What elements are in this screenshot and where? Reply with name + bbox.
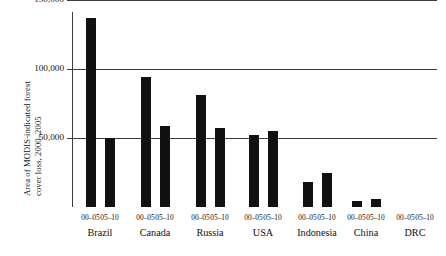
bar-indonesia-05-10 bbox=[322, 173, 332, 208]
chart-figure: Area of MODIS-indicated forest cover los… bbox=[0, 0, 446, 256]
y-axis-line bbox=[72, 12, 73, 207]
bar-china-00-05 bbox=[352, 201, 362, 207]
bar-canada-05-10 bbox=[160, 126, 170, 207]
y-tick-150000 bbox=[67, 0, 72, 1]
bar-russia-05-10 bbox=[215, 128, 225, 207]
x-period-label-drc-05-10: 05–10 bbox=[411, 213, 439, 222]
bar-brazil-00-05 bbox=[86, 18, 96, 207]
x-period-label-usa-05-10: 05–10 bbox=[259, 213, 287, 222]
bar-brazil-05-10 bbox=[105, 138, 115, 207]
bar-russia-00-05 bbox=[196, 95, 206, 207]
bar-indonesia-00-05 bbox=[303, 182, 313, 207]
y-tick-50000 bbox=[67, 138, 72, 139]
y-axis-title-line2: cover loss, 2000–2005 bbox=[33, 116, 43, 196]
bar-canada-00-05 bbox=[141, 77, 151, 207]
x-period-label-indonesia-05-10: 05–10 bbox=[313, 213, 341, 222]
x-country-label-drc: DRC bbox=[375, 227, 446, 238]
y-tick-100000 bbox=[67, 69, 72, 70]
x-period-label-brazil-05-10: 05–10 bbox=[96, 213, 124, 222]
gridline-100000 bbox=[72, 69, 437, 70]
y-tick-label-150000: 150,000 bbox=[4, 0, 64, 4]
bar-china-05-10 bbox=[371, 199, 381, 207]
plot-area bbox=[72, 12, 437, 207]
y-tick-label-100000: 100,000 bbox=[4, 63, 64, 73]
gridline-150000 bbox=[72, 0, 437, 1]
x-period-label-canada-05-10: 05–10 bbox=[151, 213, 179, 222]
x-period-label-russia-05-10: 05–10 bbox=[206, 213, 234, 222]
x-period-label-china-05-10: 05–10 bbox=[362, 213, 390, 222]
y-axis-title: Area of MODIS-indicated forest cover los… bbox=[0, 0, 40, 212]
bar-usa-05-10 bbox=[268, 131, 278, 207]
y-tick-label-50000: 50,000 bbox=[4, 132, 64, 142]
bar-usa-00-05 bbox=[249, 135, 259, 207]
